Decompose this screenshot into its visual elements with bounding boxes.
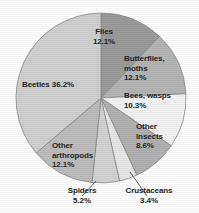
- slice-label-spiders: Spiders 5.2%: [56, 186, 108, 205]
- pie-chart-figure: Beetles 36.2% Flies 12.1% Butterflies, m…: [0, 0, 199, 213]
- slice-label-butterflies-moths: Butterflies, moths 12.1%: [124, 54, 182, 83]
- slice-label-other-insects: Other insects 8.6%: [136, 122, 180, 151]
- slice-label-flies: Flies 12.1%: [82, 27, 126, 46]
- slice-label-crustaceans: Crustaceans 3.4%: [118, 186, 180, 205]
- slice-label-other-arthropods: Other arthropods 12.1%: [52, 141, 110, 170]
- slice-label-beetles: Beetles 36.2%: [8, 80, 88, 90]
- slice-label-bees-wasps: Bees, wasps 10.3%: [124, 91, 186, 110]
